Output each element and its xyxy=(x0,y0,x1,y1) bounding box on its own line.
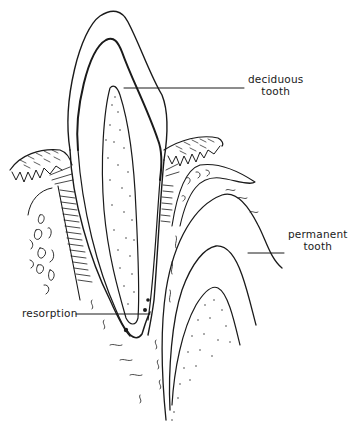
alveolar-crest-left xyxy=(28,188,52,215)
label-permanent-line2: tooth xyxy=(288,240,348,252)
periodontal-fibers-left xyxy=(50,167,92,300)
tooth-illustration xyxy=(0,0,352,430)
gingiva-left xyxy=(10,150,72,170)
periodontal-fibers-right xyxy=(161,164,179,222)
label-deciduous-line1: deciduous xyxy=(248,73,303,85)
permanent-enamel-outline xyxy=(162,194,282,420)
deciduous-root-left xyxy=(70,150,130,336)
label-deciduous-line2: tooth xyxy=(248,85,303,97)
gingiva-right xyxy=(164,137,223,150)
deciduous-root-right xyxy=(148,160,164,335)
diagram: deciduous tooth permanent tooth resorpti… xyxy=(0,0,352,430)
permanent-pulp-outline xyxy=(172,287,240,405)
permanent-dentin-outline xyxy=(170,246,257,410)
resorbed-root-tip xyxy=(128,312,150,338)
connective-tissue-marks xyxy=(91,189,258,403)
pulp-chamber xyxy=(102,86,138,324)
label-resorption-text: resorption xyxy=(22,307,78,319)
label-deciduous-tooth: deciduous tooth xyxy=(248,73,303,97)
pulp-stipple xyxy=(105,96,134,304)
gingiva-left-texture xyxy=(20,150,60,168)
label-permanent-line1: permanent xyxy=(288,228,348,240)
label-permanent-tooth: permanent tooth xyxy=(288,228,348,252)
label-resorption: resorption xyxy=(22,307,78,319)
deciduous-dentin-outline xyxy=(77,39,161,180)
bone-trabeculae-left xyxy=(30,215,54,294)
permanent-stipple xyxy=(171,299,230,420)
bony-crypt xyxy=(172,164,255,226)
